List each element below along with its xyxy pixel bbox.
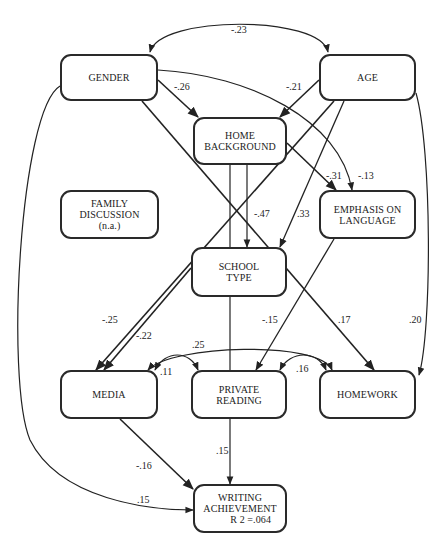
node-gender: GENDER bbox=[60, 54, 158, 101]
coef-media-homework: .25 bbox=[192, 340, 205, 350]
node-home-background-line2: BACKGROUND bbox=[204, 141, 276, 152]
edge-home-emphasis bbox=[287, 143, 336, 190]
edge-media-writing bbox=[120, 419, 193, 489]
node-homework: HOMEWORK bbox=[319, 370, 416, 419]
node-private-reading-line2: READING bbox=[216, 395, 262, 406]
node-private-reading-line1: PRIVATE bbox=[219, 384, 260, 395]
coef-gender-home: -.26 bbox=[174, 82, 190, 92]
node-writing-line1: WRITING bbox=[218, 492, 262, 503]
coef-gender-homework: .17 bbox=[338, 315, 351, 325]
coef-school-media-b: -.22 bbox=[136, 331, 152, 341]
node-home-background-line1: HOME bbox=[225, 130, 255, 141]
node-school-type-line1: SCHOOL bbox=[219, 261, 260, 272]
coef-gender-writing: .15 bbox=[137, 495, 150, 505]
node-family-discussion-note: (n.a.) bbox=[99, 220, 121, 231]
node-emphasis-line1: EMPHASIS ON bbox=[334, 204, 402, 215]
coef-gender-age: -.23 bbox=[231, 25, 247, 35]
node-media-label: MEDIA bbox=[92, 389, 125, 400]
node-gender-label: GENDER bbox=[88, 72, 129, 83]
coef-emphasis-reading: -.15 bbox=[262, 315, 278, 325]
node-emphasis-line2: LANGUAGE bbox=[339, 215, 395, 226]
coef-home-emphasis: -.31 bbox=[326, 171, 342, 181]
coef-home-school: -.47 bbox=[254, 209, 270, 219]
coef-media-reading: .11 bbox=[160, 367, 172, 377]
node-home-background: HOME BACKGROUND bbox=[193, 117, 287, 165]
edge-gender-writing bbox=[18, 86, 193, 510]
node-emphasis-on-language: EMPHASIS ON LANGUAGE bbox=[319, 190, 416, 239]
coef-reading-homework: .16 bbox=[296, 364, 309, 374]
node-age: AGE bbox=[319, 54, 416, 101]
coef-age-home: -.21 bbox=[286, 82, 302, 92]
coef-school-media-a: -.25 bbox=[102, 315, 118, 325]
node-school-type: SCHOOL TYPE bbox=[191, 247, 287, 297]
coef-age-school: .33 bbox=[297, 209, 310, 219]
node-age-label: AGE bbox=[357, 72, 378, 83]
coef-reading-writing: .15 bbox=[216, 446, 229, 456]
coef-age-homework: .20 bbox=[409, 315, 422, 325]
node-family-discussion-line1: FAMILY bbox=[91, 198, 128, 209]
node-school-type-line2: TYPE bbox=[226, 272, 251, 283]
node-media: MEDIA bbox=[60, 370, 158, 419]
node-family-discussion-line2: DISCUSSION bbox=[80, 209, 140, 220]
node-writing-achievement: WRITING ACHIEVEMENT R 2 =.064 bbox=[193, 484, 287, 533]
path-diagram: GENDER AGE HOME BACKGROUND FAMILY DISCUS… bbox=[0, 0, 442, 539]
node-writing-line2: ACHIEVEMENT bbox=[203, 503, 276, 514]
node-writing-r2: R 2 =.064 bbox=[230, 514, 271, 525]
coef-media-writing: -.16 bbox=[136, 461, 152, 471]
node-private-reading: PRIVATE READING bbox=[191, 370, 287, 419]
node-homework-label: HOMEWORK bbox=[337, 389, 398, 400]
edge-age-homework bbox=[416, 93, 428, 375]
node-family-discussion: FAMILY DISCUSSION (n.a.) bbox=[60, 190, 159, 239]
coef-gender-emphasis: -.13 bbox=[358, 171, 374, 181]
